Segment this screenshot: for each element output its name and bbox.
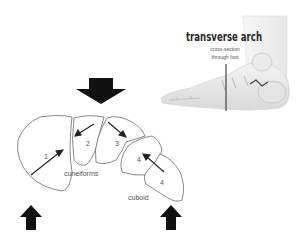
bone-label-1: 1	[44, 153, 48, 160]
bones-cross-section	[18, 116, 184, 202]
up-force-arrow-left-icon	[20, 205, 42, 230]
up-force-arrow-right-icon	[160, 205, 182, 230]
subtitle-line-1: cross-section	[210, 46, 240, 52]
bone-label-4-upper: 4	[137, 156, 141, 163]
calcaneus-bone	[258, 81, 286, 103]
bone-label-3: 3	[115, 140, 119, 147]
bone-label-2: 2	[86, 140, 90, 147]
cuneiforms-label: cuneiforms	[64, 170, 99, 177]
talus-bone	[252, 53, 272, 71]
transverse-arch-diagram: transverse arch cross-section through fo…	[0, 0, 304, 245]
bone-label-4-lower: 4	[160, 179, 164, 186]
cuboid-label: cuboid	[128, 194, 149, 201]
figure-title: transverse arch	[186, 29, 262, 44]
foot-illustration: transverse arch cross-section through fo…	[161, 16, 289, 111]
subtitle-line-2: through foot	[212, 54, 239, 60]
down-force-arrow-icon	[76, 78, 126, 104]
